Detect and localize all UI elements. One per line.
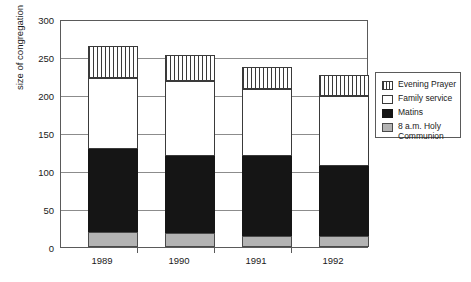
white-swatch-icon — [382, 95, 393, 104]
legend-item-matins[interactable]: Matins — [382, 108, 423, 118]
segment-matins-1989 — [88, 149, 138, 232]
bar-1990[interactable] — [165, 55, 215, 247]
segment-family-service-1990 — [165, 81, 215, 156]
legend-item-holy-communion[interactable]: 8 a.m. Holy Communion — [382, 122, 444, 141]
x-tick-label-1990: 1990 — [149, 255, 209, 266]
segment-evening-prayer-1990 — [165, 55, 215, 82]
segment-evening-prayer-1992 — [319, 75, 369, 96]
bar-1992[interactable] — [319, 75, 369, 247]
vertical-stripe-swatch-icon — [382, 81, 393, 90]
y-tick-label-100: 100 — [22, 167, 54, 178]
legend-label-evening-prayer: Evening Prayer — [398, 80, 456, 90]
segment-holy-communion-1990 — [165, 233, 215, 247]
y-tick-label-250: 250 — [22, 53, 54, 64]
black-swatch-icon — [382, 109, 393, 118]
segment-family-service-1992 — [319, 96, 369, 166]
segment-matins-1992 — [319, 166, 369, 237]
x-tick-mark-2 — [214, 248, 215, 253]
x-tick-label-1992: 1992 — [303, 255, 363, 266]
segment-family-service-1991 — [242, 89, 292, 156]
segment-holy-communion-1989 — [88, 232, 138, 247]
y-tick-label-0: 0 — [22, 243, 54, 254]
legend-label-holy-communion: 8 a.m. Holy Communion — [398, 122, 444, 141]
legend-label-matins: Matins — [398, 108, 423, 118]
stacked-bar-chart: size of congregation 300 250 200 150 100… — [0, 0, 471, 282]
y-tick-label-300: 300 — [22, 15, 54, 26]
x-tick-label-1991: 1991 — [226, 255, 286, 266]
segment-family-service-1989 — [88, 78, 138, 149]
x-tick-mark-1 — [137, 248, 138, 253]
grey-swatch-icon — [382, 123, 393, 132]
segment-evening-prayer-1991 — [242, 67, 292, 89]
segment-matins-1990 — [165, 156, 215, 234]
bar-1989[interactable] — [88, 46, 138, 247]
x-tick-mark-3 — [291, 248, 292, 253]
plot-area — [60, 20, 368, 248]
y-tick-label-200: 200 — [22, 91, 54, 102]
segment-holy-communion-1991 — [242, 236, 292, 247]
segment-holy-communion-1992 — [319, 236, 369, 247]
y-tick-label-150: 150 — [22, 129, 54, 140]
segment-matins-1991 — [242, 156, 292, 236]
legend: Evening Prayer Family service Matins 8 a… — [375, 72, 461, 138]
segment-evening-prayer-1989 — [88, 46, 138, 78]
legend-item-family-service[interactable]: Family service — [382, 94, 452, 104]
bar-1991[interactable] — [242, 67, 292, 247]
legend-item-evening-prayer[interactable]: Evening Prayer — [382, 80, 456, 90]
y-tick-label-50: 50 — [22, 205, 54, 216]
x-tick-label-1989: 1989 — [72, 255, 132, 266]
legend-label-family-service: Family service — [398, 94, 452, 104]
